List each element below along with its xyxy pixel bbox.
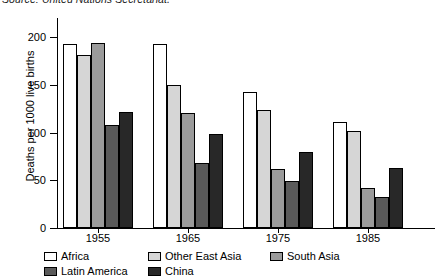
x-tick-label-1965: 1965 — [153, 232, 223, 244]
y-tick-100 — [50, 133, 58, 134]
legend-item-latin-america[interactable]: Latin America — [44, 265, 148, 277]
legend-swatch-africa — [44, 252, 57, 261]
legend-item-africa[interactable]: Africa — [44, 250, 148, 262]
legend-label-africa: Africa — [61, 250, 89, 262]
y-tick-label: 150 — [2, 80, 46, 91]
y-tick-0 — [50, 228, 58, 229]
legend-label-south-asia: South Asia — [287, 250, 340, 262]
bar-latin-america-1955 — [105, 125, 119, 228]
bar-africa-1975 — [243, 92, 257, 228]
bar-africa-1965 — [153, 44, 167, 228]
bar-group-1955 — [63, 18, 133, 228]
bar-group-1985 — [333, 18, 403, 228]
plot-area — [58, 18, 435, 228]
legend-swatch-south-asia — [270, 252, 283, 261]
bar-africa-1955 — [63, 44, 77, 228]
y-tick-label: 100 — [2, 128, 46, 139]
bar-china-1975 — [299, 152, 313, 228]
x-tick-label-1985: 1985 — [333, 232, 403, 244]
bar-group-1975 — [243, 18, 313, 228]
legend-row-2: Latin AmericaChina — [44, 264, 444, 278]
legend-row-1: AfricaOther East AsiaSouth Asia — [44, 249, 444, 263]
bar-chart: Deaths per 1000 live births 050100150200… — [0, 0, 448, 248]
bar-other-east-asia-1985 — [347, 131, 361, 228]
legend-label-latin-america: Latin America — [61, 265, 128, 277]
y-tick-label: 50 — [2, 175, 46, 186]
legend-item-other-east-asia[interactable]: Other East Asia — [148, 250, 270, 262]
bar-south-asia-1985 — [361, 188, 375, 228]
legend-item-china[interactable]: China — [148, 265, 270, 277]
y-tick-label: 200 — [2, 32, 46, 43]
bar-africa-1985 — [333, 122, 347, 228]
bar-latin-america-1965 — [195, 163, 209, 228]
bar-latin-america-1975 — [285, 181, 299, 228]
y-tick-50 — [50, 180, 58, 181]
y-tick-label: 0 — [2, 223, 46, 234]
bar-south-asia-1955 — [91, 43, 105, 228]
legend-swatch-other-east-asia — [148, 252, 161, 261]
x-axis-line — [57, 228, 435, 229]
legend-label-china: China — [165, 265, 194, 277]
bar-south-asia-1965 — [181, 113, 195, 228]
legend-swatch-latin-america — [44, 267, 57, 276]
x-tick-label-1975: 1975 — [243, 232, 313, 244]
bar-group-1965 — [153, 18, 223, 228]
legend-swatch-china — [148, 267, 161, 276]
x-tick-label-1955: 1955 — [63, 232, 133, 244]
y-tick-150 — [50, 85, 58, 86]
bar-other-east-asia-1965 — [167, 85, 181, 228]
bar-china-1965 — [209, 134, 223, 228]
bar-china-1955 — [119, 112, 133, 228]
bar-other-east-asia-1955 — [77, 55, 91, 228]
bar-south-asia-1975 — [271, 169, 285, 228]
bar-latin-america-1985 — [375, 197, 389, 229]
bar-china-1985 — [389, 168, 403, 228]
legend: AfricaOther East AsiaSouth AsiaLatin Ame… — [44, 249, 444, 279]
bar-other-east-asia-1975 — [257, 110, 271, 228]
legend-item-south-asia[interactable]: South Asia — [270, 250, 392, 262]
y-tick-200 — [50, 37, 58, 38]
legend-label-other-east-asia: Other East Asia — [165, 250, 241, 262]
